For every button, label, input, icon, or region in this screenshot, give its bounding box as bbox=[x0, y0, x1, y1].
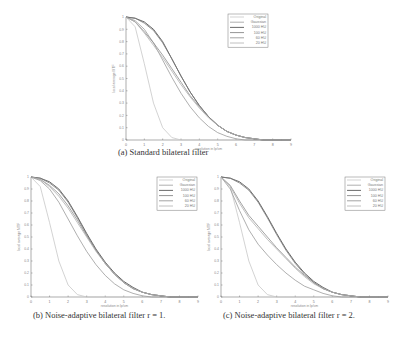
legend-label: 60 HU bbox=[256, 36, 267, 40]
x-tick-label: 2 bbox=[67, 300, 69, 304]
x-tick-label: 1 bbox=[143, 143, 145, 147]
y-tick-label: 0 bbox=[217, 295, 219, 299]
y-tick-label: 0.7 bbox=[119, 52, 124, 56]
y-tick-label: 1 bbox=[122, 15, 124, 19]
y-tick-label: 1 bbox=[27, 175, 29, 179]
y-tick-label: 1 bbox=[217, 175, 219, 179]
x-tick-label: 7 bbox=[160, 300, 162, 304]
y-tick-label: 0.3 bbox=[214, 259, 219, 263]
x-tick-label: 0 bbox=[125, 143, 127, 147]
legend: OriginalGaussian1000 HU100 HU60 HU20 HU bbox=[157, 177, 197, 210]
x-tick-label: 6 bbox=[235, 143, 237, 147]
legend-label: Original bbox=[183, 178, 196, 182]
x-axis-label: resolution in lp/cm bbox=[101, 304, 129, 308]
legend-label: 60 HU bbox=[373, 199, 384, 203]
y-tick-label: 0.5 bbox=[119, 77, 124, 81]
legend-label: Original bbox=[371, 178, 384, 182]
x-tick-label: 1 bbox=[49, 300, 51, 304]
x-tick-label: 8 bbox=[368, 300, 370, 304]
caption-b: (b) Noise-adaptive bilateral filter r = … bbox=[33, 310, 165, 320]
chart-a: 012345678900.10.20.30.40.50.60.70.80.91r… bbox=[112, 14, 292, 151]
y-tick-label: 0.4 bbox=[119, 89, 124, 93]
legend-label: 60 HU bbox=[185, 199, 196, 203]
x-tick-label: 8 bbox=[272, 143, 274, 147]
x-tick-label: 0 bbox=[220, 300, 222, 304]
plots-canvas: 012345678900.10.20.30.40.50.60.70.80.91r… bbox=[0, 0, 406, 337]
chart-c: 012345678900.10.20.30.40.50.60.70.80.91r… bbox=[207, 175, 389, 307]
x-tick-label: 6 bbox=[331, 300, 333, 304]
x-tick-label: 8 bbox=[178, 300, 180, 304]
y-tick-label: 0.5 bbox=[214, 235, 219, 239]
y-tick-label: 0.6 bbox=[214, 223, 219, 227]
x-tick-label: 7 bbox=[253, 143, 255, 147]
y-tick-label: 0.8 bbox=[214, 199, 219, 203]
legend-label: 20 HU bbox=[373, 204, 384, 208]
legend-label: 20 HU bbox=[256, 41, 267, 45]
y-tick-label: 0.9 bbox=[214, 187, 219, 191]
y-tick-label: 0.2 bbox=[119, 114, 124, 118]
x-tick-label: 3 bbox=[180, 143, 182, 147]
y-tick-label: 0.2 bbox=[214, 271, 219, 275]
y-tick-label: 0.6 bbox=[24, 223, 29, 227]
y-tick-label: 0.3 bbox=[119, 101, 124, 105]
y-axis-label: local average MTF bbox=[17, 223, 21, 251]
y-tick-label: 0.7 bbox=[24, 211, 29, 215]
y-tick-label: 0.9 bbox=[119, 28, 124, 32]
legend-label: 1000 HU bbox=[369, 188, 384, 192]
y-tick-label: 0.8 bbox=[119, 40, 124, 44]
x-tick-label: 9 bbox=[290, 143, 292, 147]
y-tick-label: 0.1 bbox=[119, 126, 124, 130]
y-tick-label: 0.8 bbox=[24, 199, 29, 203]
x-tick-label: 9 bbox=[387, 300, 389, 304]
y-tick-label: 0.4 bbox=[24, 247, 29, 251]
y-tick-label: 0.7 bbox=[214, 211, 219, 215]
y-tick-label: 0.9 bbox=[24, 187, 29, 191]
y-tick-label: 0.4 bbox=[214, 247, 219, 251]
legend-label: Gaussian bbox=[368, 183, 383, 187]
legend-label: Gaussian bbox=[251, 20, 266, 24]
y-tick-label: 0 bbox=[27, 295, 29, 299]
legend-label: Original bbox=[254, 15, 267, 19]
y-tick-label: 0.3 bbox=[24, 259, 29, 263]
x-tick-label: 7 bbox=[350, 300, 352, 304]
x-tick-label: 2 bbox=[257, 300, 259, 304]
x-tick-label: 1 bbox=[239, 300, 241, 304]
y-tick-label: 0.2 bbox=[24, 271, 29, 275]
x-tick-label: 6 bbox=[141, 300, 143, 304]
legend: OriginalGaussian1000 HU100 HU60 HU20 HU bbox=[228, 14, 268, 47]
chart-b: 012345678900.10.20.30.40.50.60.70.80.91r… bbox=[17, 175, 199, 307]
legend-label: 100 HU bbox=[254, 31, 267, 35]
y-tick-label: 0.1 bbox=[24, 283, 29, 287]
x-axis-label: resolution in lp/cm bbox=[291, 304, 319, 308]
caption-c: (c) Noise-adaptive bilateral filter r = … bbox=[223, 310, 355, 320]
x-tick-label: 3 bbox=[86, 300, 88, 304]
legend-label: 100 HU bbox=[183, 194, 196, 198]
y-tick-label: 0.1 bbox=[214, 283, 219, 287]
caption-a: (a) Standard bilateral filter bbox=[118, 147, 208, 157]
y-tick-label: 0 bbox=[122, 138, 124, 142]
legend-label: 20 HU bbox=[185, 204, 196, 208]
x-tick-label: 0 bbox=[30, 300, 32, 304]
legend-label: Gaussian bbox=[180, 183, 195, 187]
legend-label: 1000 HU bbox=[252, 25, 267, 29]
y-tick-label: 0.5 bbox=[24, 235, 29, 239]
x-tick-label: 9 bbox=[197, 300, 199, 304]
y-axis-label: local average MTF bbox=[112, 64, 116, 92]
y-tick-label: 0.6 bbox=[119, 64, 124, 68]
legend: OriginalGaussian1000 HU100 HU60 HU20 HU bbox=[345, 177, 385, 210]
y-axis-label: local average MTF bbox=[207, 223, 211, 251]
x-tick-label: 3 bbox=[276, 300, 278, 304]
legend-label: 100 HU bbox=[371, 194, 384, 198]
legend-label: 1000 HU bbox=[181, 188, 196, 192]
x-tick-label: 2 bbox=[162, 143, 164, 147]
